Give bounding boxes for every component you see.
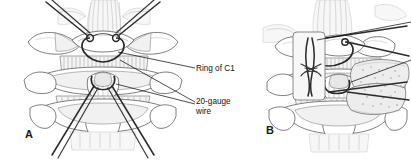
- c1-posterior-arch: [72, 31, 134, 52]
- callout-twenty-gauge-wire-line-2: wire: [196, 107, 231, 117]
- wire-twist-inset-box: [293, 32, 325, 100]
- callout-twenty-gauge-wire-line-1: 20-gauge: [196, 97, 231, 107]
- bone-graft: [347, 60, 410, 115]
- panel-label-b: B: [266, 124, 274, 136]
- panel-b: [255, 0, 411, 161]
- figure-container: Ring of C1 20-gauge wire A B: [0, 0, 411, 161]
- panel-b-illustration: [255, 0, 411, 161]
- callout-ring-of-c1-line-1: Ring of C1: [196, 64, 235, 74]
- panel-label-a: A: [25, 128, 33, 140]
- c3-inferior-tissue-b: [309, 134, 369, 152]
- callout-ring-of-c1: Ring of C1: [196, 64, 235, 74]
- c3-inferior-tissue: [70, 132, 136, 150]
- callout-twenty-gauge-wire: 20-gauge wire: [196, 97, 231, 116]
